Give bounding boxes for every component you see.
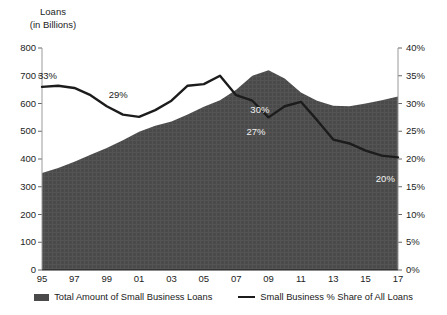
chart-legend: Total Amount of Small Business Loans Sma… <box>0 292 447 302</box>
x-axis-tick-05: 05 <box>193 274 215 284</box>
y-axis-title: Loans(in Billions) <box>14 6 92 31</box>
data-label-30pct: 30% <box>250 105 269 115</box>
legend-label-area: Total Amount of Small Business Loans <box>54 292 212 302</box>
y-axis-title-line2: (in Billions) <box>30 19 76 30</box>
x-axis-tick-11: 11 <box>290 274 312 284</box>
y-axis-right-tick-15%: 15% <box>406 182 438 192</box>
area-series-total-loans <box>42 70 398 270</box>
y-axis-left-tick-600: 600 <box>8 99 36 109</box>
y-axis-right-tick-40%: 40% <box>406 43 438 53</box>
x-axis-tick-95: 95 <box>31 274 53 284</box>
y-axis-left-tick-100: 100 <box>8 237 36 247</box>
y-axis-left-tick-500: 500 <box>8 126 36 136</box>
x-axis-tick-15: 15 <box>355 274 377 284</box>
legend-item-line: Small Business % Share of All Loans <box>238 292 412 302</box>
x-axis-tick-17: 17 <box>387 274 409 284</box>
y-axis-left-tick-200: 200 <box>8 210 36 220</box>
x-axis-tick-03: 03 <box>160 274 182 284</box>
y-axis-right-tick-30%: 30% <box>406 99 438 109</box>
data-label-27pct: 27% <box>247 127 266 137</box>
x-axis-tick-09: 09 <box>258 274 280 284</box>
legend-item-area: Total Amount of Small Business Loans <box>34 292 212 302</box>
data-label-29pct: 29% <box>109 90 128 100</box>
area-swatch-icon <box>34 294 49 301</box>
y-axis-right-tick-10%: 10% <box>406 210 438 220</box>
y-axis-right-tick-35%: 35% <box>406 71 438 81</box>
y-axis-left-tick-700: 700 <box>8 71 36 81</box>
y-axis-left-tick-300: 300 <box>8 182 36 192</box>
chart-container: Loans(in Billions) 010020030040050060070… <box>0 0 447 315</box>
x-axis-tick-99: 99 <box>96 274 118 284</box>
y-axis-right-tick-25%: 25% <box>406 126 438 136</box>
x-axis-tick-07: 07 <box>225 274 247 284</box>
data-label-20pct: 20% <box>376 174 395 184</box>
y-axis-left-tick-400: 400 <box>8 154 36 164</box>
line-swatch-icon <box>238 296 255 298</box>
data-label-33pct: 33% <box>38 71 57 81</box>
y-axis-title-line1: Loans <box>40 6 66 17</box>
y-axis-left-tick-800: 800 <box>8 43 36 53</box>
legend-label-line: Small Business % Share of All Loans <box>260 292 412 302</box>
x-axis-tick-01: 01 <box>128 274 150 284</box>
y-axis-right-tick-5%: 5% <box>406 237 438 247</box>
y-axis-right-tick-0%: 0% <box>406 265 438 275</box>
plot-area <box>0 0 447 315</box>
y-axis-right-tick-20%: 20% <box>406 154 438 164</box>
x-axis-tick-97: 97 <box>63 274 85 284</box>
x-axis-tick-13: 13 <box>322 274 344 284</box>
